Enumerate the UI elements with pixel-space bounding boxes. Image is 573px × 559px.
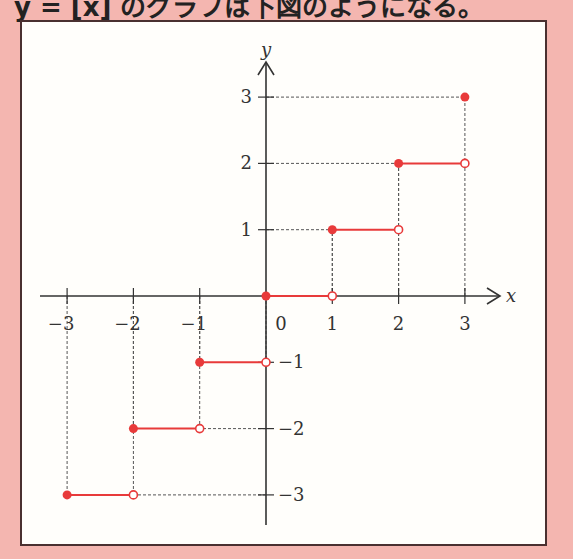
open-point (129, 491, 137, 499)
y-tick-label: 1 (241, 219, 252, 240)
x-tick-label: −2 (114, 313, 141, 334)
y-axis-label: y (260, 39, 272, 60)
y-tick-label: 2 (241, 152, 252, 173)
open-point (262, 358, 270, 366)
tick-labels: xy−3−2−11230−3−2−1123 (48, 39, 516, 505)
y-tick-label: −1 (278, 351, 305, 372)
closed-point (129, 424, 138, 433)
x-tick-label: 2 (393, 313, 404, 334)
x-tick-label: 1 (327, 313, 338, 334)
x-axis-label: x (506, 285, 516, 306)
y-tick-label: 3 (241, 86, 252, 107)
origin-label: 0 (275, 313, 286, 334)
y-tick-label: −3 (278, 484, 305, 505)
open-point (395, 226, 403, 234)
axes (40, 62, 500, 525)
closed-point (460, 93, 469, 102)
x-tick-label: −1 (180, 313, 207, 334)
closed-point (63, 490, 72, 499)
floor-function-chart: xy−3−2−11230−3−2−1123 (0, 0, 573, 559)
closed-point (262, 292, 271, 301)
closed-point (328, 225, 337, 234)
closed-point (394, 159, 403, 168)
x-tick-label: 3 (459, 313, 470, 334)
y-tick-label: −2 (278, 418, 305, 439)
x-tick-label: −3 (48, 313, 75, 334)
open-point (461, 159, 469, 167)
open-point (328, 292, 336, 300)
open-point (196, 425, 204, 433)
closed-point (195, 358, 204, 367)
